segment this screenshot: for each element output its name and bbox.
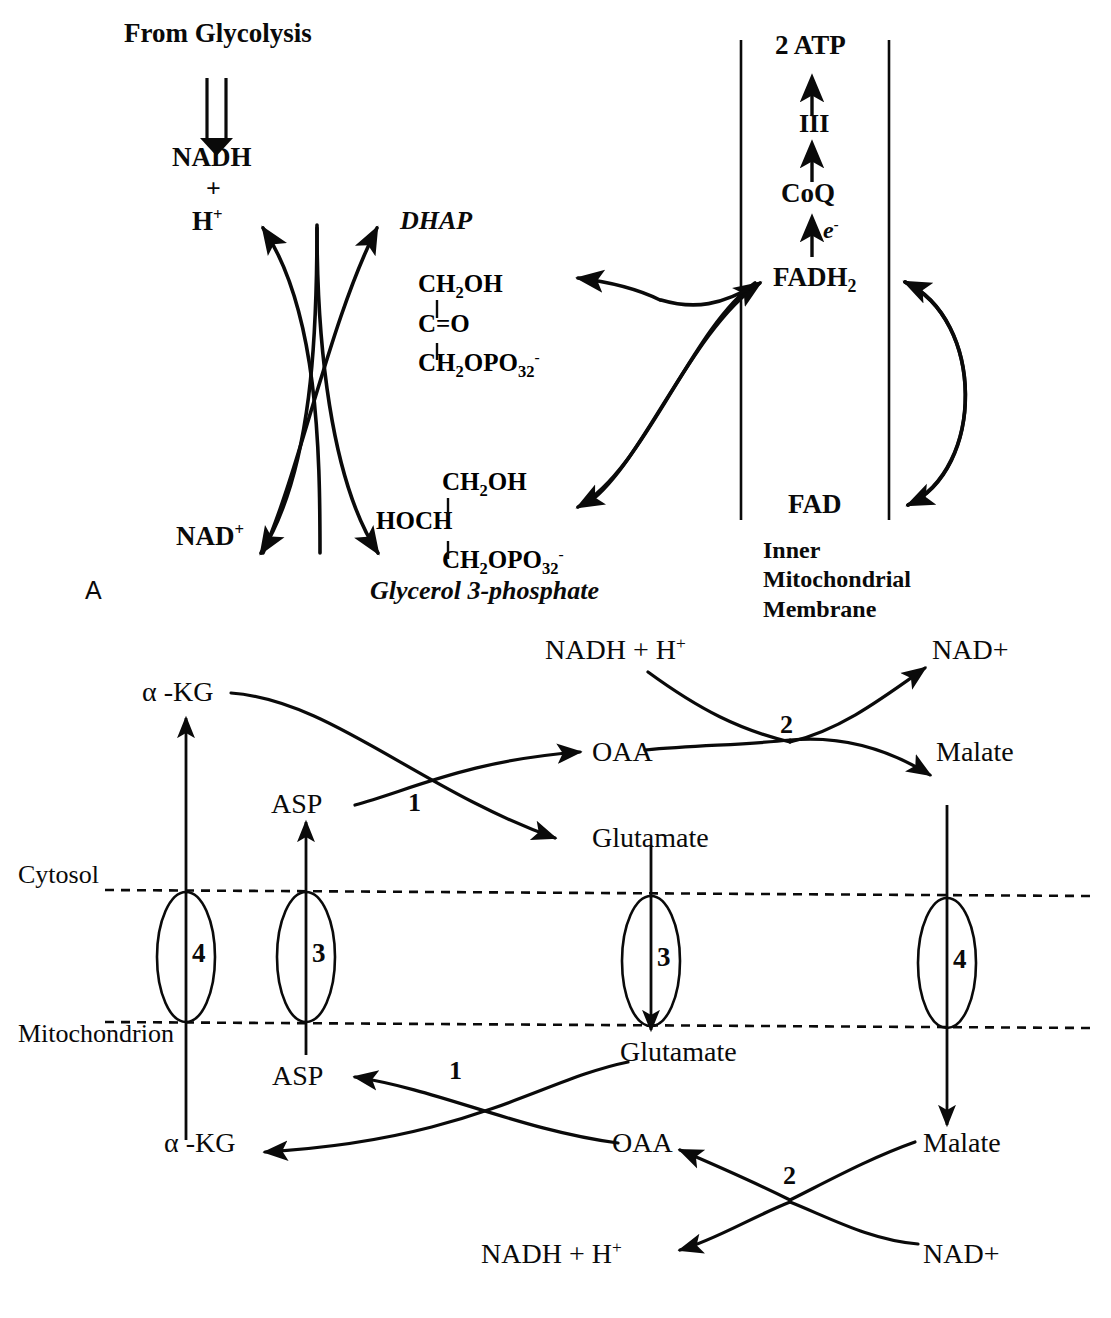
glycerol-3-phosphate-label: Glycerol 3-phosphate (370, 578, 599, 604)
malate-bottom-label: Malate (923, 1129, 1001, 1157)
fad-label: FAD (788, 491, 842, 518)
figure-canvas: From Glycolysis NADH + H+ NAD+ DHAP CH2O… (0, 0, 1111, 1318)
cytosol-boundary (105, 890, 1090, 896)
akg-bottom-label: α -KG (164, 1129, 235, 1157)
membrane-boundaries (105, 890, 1090, 1028)
inner-membrane-line-1: Inner (763, 536, 911, 565)
transporter-oval-3-left (277, 892, 335, 1022)
glycerol-3-phosphate-structure: CH2OH HOCH CH2OPO32- (417, 468, 564, 574)
asp-bottom-label: ASP (272, 1062, 323, 1090)
oaa-bottom-label: OAA (612, 1129, 673, 1157)
electron-label: e- (823, 218, 839, 242)
nadh-label: NADH (172, 144, 252, 171)
dhap-line-2: C=O (418, 310, 540, 338)
h-plus-label: H+ (192, 208, 223, 235)
transporter-oval-4-left (157, 892, 215, 1022)
nadh-plus-sign: + (206, 176, 221, 202)
enzyme-2-top-label: 2 (780, 712, 793, 738)
g3p-line-3: CH2OPO32- (442, 546, 564, 574)
two-atp-label: 2 ATP (775, 32, 846, 59)
nad-plus-top-label: NAD+ (932, 636, 1008, 664)
coq-label: CoQ (781, 180, 835, 207)
transporter-label-3-right: 3 (657, 944, 671, 971)
transporter-ellipses (157, 892, 976, 1028)
transporter-oval-3-right (622, 896, 680, 1026)
akg-top-label: α -KG (142, 678, 213, 706)
fad-cycle-curves (578, 278, 965, 507)
enzyme-1-bottom-label: 1 (449, 1058, 462, 1084)
enzyme-1-top-label: 1 (408, 790, 421, 816)
nadh-h-top-label: NADH + H+ (545, 636, 686, 664)
nad-plus-label: NAD+ (176, 523, 244, 550)
asp-top-label: ASP (271, 790, 322, 818)
inner-membrane-line-3: Membrane (763, 595, 911, 624)
mitochondrion-label: Mitochondrion (18, 1021, 174, 1047)
transporter-label-4-left: 4 (192, 940, 206, 967)
cytosol-label: Cytosol (18, 862, 99, 888)
dhap-line-1: CH2OH (418, 270, 540, 298)
enzyme-2-bottom-label: 2 (783, 1163, 796, 1189)
oaa-top-label: OAA (592, 738, 653, 766)
mito-mdh-bowtie (680, 1142, 918, 1250)
complex-iii-label: III (799, 111, 829, 137)
nad-plus-bottom-label: NAD+ (923, 1240, 999, 1268)
inner-membrane-line-2: Mitochondrial (763, 565, 911, 594)
g3p-line-2: HOCH (376, 507, 564, 535)
g3p-line-1: CH2OH (442, 468, 564, 496)
transporter-label-4-right: 4 (953, 946, 967, 973)
dhap-label: DHAP (400, 208, 472, 234)
transporter-oval-4-right (918, 898, 976, 1028)
panel-a-letter: A (85, 578, 102, 603)
glutamate-bottom-label: Glutamate (620, 1038, 737, 1066)
nadh-h-bottom-label: NADH + H+ (481, 1240, 622, 1268)
dhap-line-3: CH2OPO32- (418, 349, 540, 377)
fadh2-label: FADH2 (773, 264, 856, 291)
glycerol-phosphate-crossover (261, 225, 378, 553)
inner-membrane-caption: Inner Mitochondrial Membrane (763, 536, 911, 624)
transporter-label-3-left: 3 (312, 940, 326, 967)
dhap-structure: CH2OH C=O CH2OPO32- (418, 270, 540, 377)
glutamate-top-label: Glutamate (592, 824, 709, 852)
mitochondrion-boundary (105, 1022, 1090, 1028)
from-glycolysis-label: From Glycolysis (124, 20, 312, 47)
malate-top-label: Malate (936, 738, 1014, 766)
